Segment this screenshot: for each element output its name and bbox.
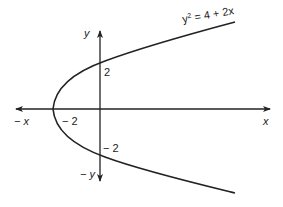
x-neg-axis-label: − x xyxy=(14,115,29,127)
x-axis-label: x xyxy=(262,115,269,127)
parabola-diagram: y2 = 4 + 2x y 2 − x − 2 x − 2 − y xyxy=(0,0,283,207)
equation-label: y2 = 4 + 2x xyxy=(181,4,235,25)
y-intercept-pos-label: 2 xyxy=(104,66,110,78)
x-vertex-label: − 2 xyxy=(62,115,78,127)
y-axis-label: y xyxy=(83,27,91,39)
y-neg-axis-label: − y xyxy=(80,168,96,180)
y-intercept-neg-label: − 2 xyxy=(103,142,119,154)
